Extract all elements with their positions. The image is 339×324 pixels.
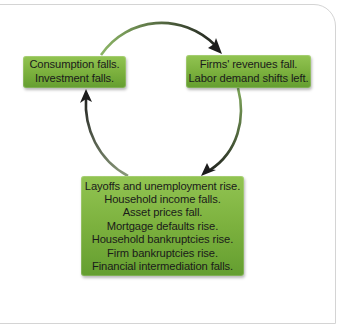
arrowhead-icon bbox=[201, 163, 216, 176]
node-text-line: Mortgage defaults rise. bbox=[107, 220, 219, 233]
node-text-line: Layoffs and unemployment rise. bbox=[85, 180, 240, 193]
node-text-line: Investment falls. bbox=[35, 72, 114, 86]
arrow-left-to-right bbox=[101, 23, 222, 55]
node-text-line: Labor demand shifts left. bbox=[188, 72, 308, 86]
node-text-line: Household bankruptcies rise. bbox=[92, 233, 233, 246]
node-consumption-investment: Consumption falls. Investment falls. bbox=[23, 56, 126, 88]
node-text-line: Firms' revenues fall. bbox=[200, 58, 298, 72]
node-text-line: Household income falls. bbox=[104, 193, 220, 206]
node-text-line: Firm bankruptcies rise. bbox=[107, 247, 218, 260]
node-text-line: Asset prices fall. bbox=[123, 206, 203, 219]
node-text-line: Consumption falls. bbox=[29, 58, 119, 72]
arrow-bottom-to-left bbox=[80, 89, 128, 176]
node-layoffs-income-assets: Layoffs and unemployment rise. Household… bbox=[81, 176, 244, 276]
node-firms-revenues-labor-demand: Firms' revenues fall. Labor demand shift… bbox=[186, 55, 311, 88]
arrow-right-to-bottom bbox=[201, 88, 241, 176]
node-text-line: Financial intermediation falls. bbox=[92, 260, 233, 273]
